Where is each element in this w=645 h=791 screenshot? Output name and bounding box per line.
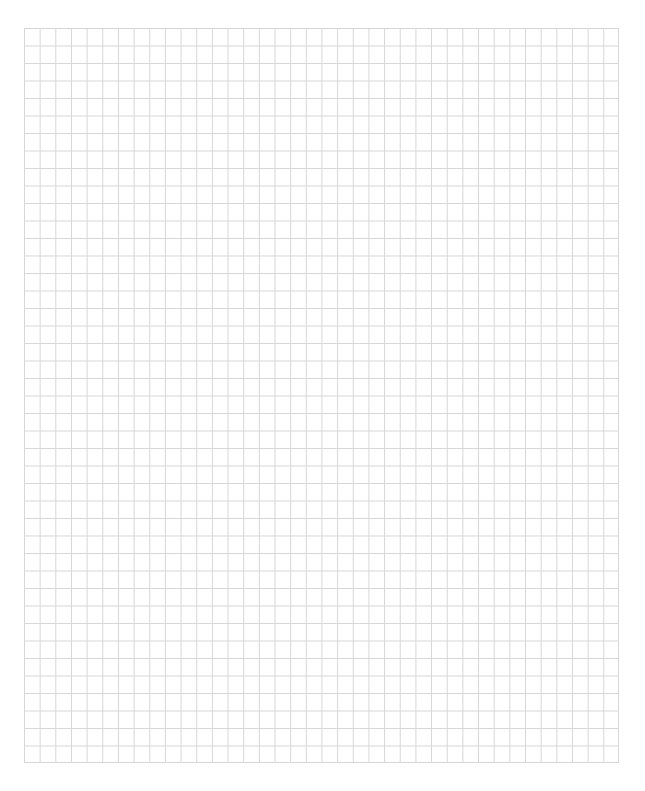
graph-grid [24, 28, 619, 763]
grid-paper-page [0, 0, 645, 791]
